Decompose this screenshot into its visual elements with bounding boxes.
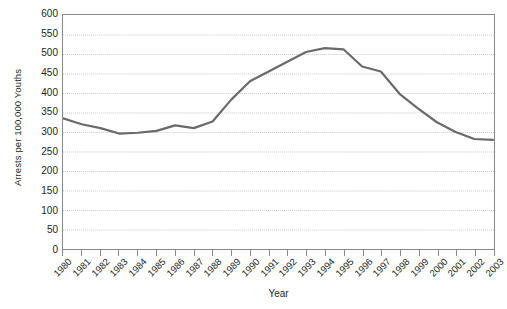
y-tick-label: 300 [18,127,58,137]
y-tick-label: 600 [18,9,58,19]
y-axis-tick-labels: 050100150200250300350400450500550600 [14,14,58,250]
y-tick-label: 250 [18,147,58,157]
y-tick-label: 550 [18,29,58,39]
chart-figure: Arrests per 100,000 Youths 0501001502002… [0,0,507,309]
x-axis-title: Year [62,288,495,300]
y-tick-label: 350 [18,107,58,117]
y-tick-label: 450 [18,68,58,78]
y-tick-label: 400 [18,88,58,98]
y-tick-label: 150 [18,186,58,196]
x-axis-tick-labels: 1980198119821983198419851986198719881989… [62,256,502,288]
y-tick-label: 200 [18,166,58,176]
y-tick-label: 100 [18,206,58,216]
plot-area [62,14,495,250]
data-line-series [63,15,494,249]
y-tick-label: 50 [18,225,58,235]
y-tick-label: 500 [18,48,58,58]
y-tick-label: 0 [18,245,58,255]
